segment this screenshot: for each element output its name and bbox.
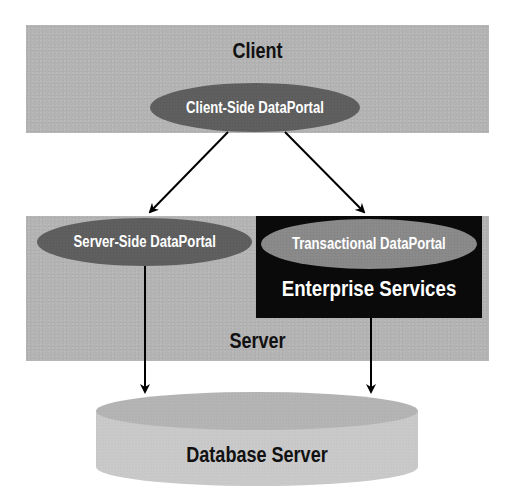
arrow-client-to-transactional [285, 132, 364, 212]
diagram-canvas: Client Client-Side DataPortal Server Ent… [0, 0, 506, 500]
arrow-client-to-server-side [150, 132, 228, 212]
client-side-dataportal-label: Client-Side DataPortal [186, 99, 324, 117]
database-server-label: Database Server [125, 442, 389, 468]
client-side-dataportal-node: Client-Side DataPortal [150, 83, 360, 132]
enterprise-services-label: Enterprise Services [273, 276, 465, 302]
transactional-dataportal-node: Transactional DataPortal [261, 219, 477, 269]
server-tier-label: Server [68, 328, 448, 354]
server-side-dataportal-node: Server-Side DataPortal [37, 218, 252, 266]
database-server-node: Database Server [96, 392, 418, 486]
transactional-dataportal-label: Transactional DataPortal [292, 235, 446, 253]
server-side-dataportal-label: Server-Side DataPortal [73, 233, 215, 251]
database-cylinder-icon [96, 392, 418, 486]
client-tier-label: Client [68, 38, 448, 64]
